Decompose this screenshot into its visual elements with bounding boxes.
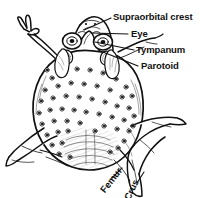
label-parotoid: Parotoid [141, 61, 179, 71]
toad-line-drawing [0, 0, 203, 198]
label-supraorbital-crest: Supraorbital crest [113, 12, 193, 22]
label-tympanum: Tympanum [136, 45, 185, 55]
left-forelimb [18, 15, 59, 62]
toad-anatomy-figure: Supraorbital crest Eye Tympanum Parotoid… [0, 0, 203, 198]
label-eye: Eye [131, 29, 148, 39]
left-eye [63, 33, 82, 49]
nostril-left [85, 23, 87, 25]
left-pupil [70, 39, 75, 43]
left-parotoid [55, 49, 69, 78]
